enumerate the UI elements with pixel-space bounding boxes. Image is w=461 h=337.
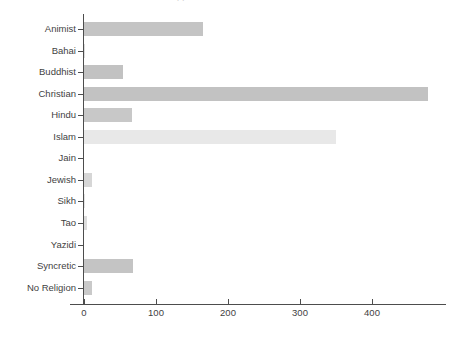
x-axis-label: 100 (136, 307, 176, 318)
y-axis-label: Buddhist (2, 67, 76, 77)
y-tick-syncretic (78, 266, 83, 267)
bar-tao[interactable] (84, 216, 87, 230)
y-tick-animist (78, 29, 83, 30)
bar-islam[interactable] (84, 130, 336, 144)
x-tick-400 (372, 299, 373, 304)
y-axis-label: Tao (2, 218, 76, 228)
y-tick-yazidi (78, 245, 83, 246)
x-axis-line (70, 304, 446, 305)
x-axis-label: 200 (208, 307, 248, 318)
y-tick-sikh (78, 201, 83, 202)
x-axis-label: 0 (64, 307, 104, 318)
y-axis-label: Yazidi (2, 240, 76, 250)
y-axis-label: Hindu (2, 110, 76, 120)
y-tick-buddhist (78, 72, 83, 73)
y-axis-label: Bahai (2, 46, 76, 56)
bar-no-religion[interactable] (84, 281, 92, 295)
bar-jewish[interactable] (84, 173, 92, 187)
y-axis-label: Islam (2, 132, 76, 142)
y-axis-label: No Religion (2, 283, 76, 293)
y-axis-label: Sikh (2, 196, 76, 206)
y-tick-hindu (78, 115, 83, 116)
bar-bahai[interactable] (84, 44, 85, 58)
chart-root: clipped header text AnimistBahaiBuddhist… (0, 0, 461, 337)
x-axis-label: 300 (280, 307, 320, 318)
y-tick-christian (78, 94, 83, 95)
y-tick-jewish (78, 180, 83, 181)
y-tick-bahai (78, 51, 83, 52)
bar-syncretic[interactable] (84, 259, 133, 273)
x-tick-300 (300, 299, 301, 304)
y-axis-label: Syncretic (2, 261, 76, 271)
y-axis-line (83, 14, 84, 304)
bar-animist[interactable] (84, 22, 203, 36)
y-axis-label: Jain (2, 153, 76, 163)
bar-christian[interactable] (84, 87, 428, 101)
x-tick-0 (84, 299, 85, 304)
bar-hindu[interactable] (84, 108, 132, 122)
y-axis-label: Jewish (2, 175, 76, 185)
bar-buddhist[interactable] (84, 65, 123, 79)
y-tick-jain (78, 158, 83, 159)
y-tick-tao (78, 223, 83, 224)
bar-sikh[interactable] (84, 194, 85, 208)
x-tick-100 (156, 299, 157, 304)
x-tick-200 (228, 299, 229, 304)
y-axis-label: Christian (2, 89, 76, 99)
y-axis-label: Animist (2, 24, 76, 34)
y-tick-islam (78, 137, 83, 138)
x-axis-label: 400 (352, 307, 392, 318)
y-tick-no-religion (78, 288, 83, 289)
plot-area: AnimistBahaiBuddhistChristianHinduIslamJ… (0, 0, 461, 337)
